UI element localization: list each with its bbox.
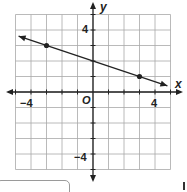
data-point: [44, 43, 49, 48]
line-arrow-icon: [19, 36, 27, 42]
y-tick-label-neg4: −4: [74, 151, 87, 163]
y-axis-down-arrow-icon: [90, 175, 96, 182]
x-axis: [6, 89, 183, 95]
coordinate-plane: y x O −4 4 4 −4: [0, 0, 187, 192]
x-axis-label: x: [174, 77, 183, 91]
edge-mark: [183, 182, 185, 190]
data-point: [137, 74, 142, 79]
y-tick-label-4: 4: [82, 23, 89, 35]
x-tick-label-4: 4: [151, 97, 158, 109]
y-axis-label: y: [99, 0, 108, 14]
origin-label: O: [82, 94, 91, 106]
y-axis-up-arrow-icon: [90, 2, 96, 9]
answer-box[interactable]: [0, 180, 70, 192]
x-axis-left-arrow-icon: [6, 89, 13, 95]
x-tick-label-neg4: −4: [20, 97, 33, 109]
line-arrow-icon: [160, 81, 168, 87]
